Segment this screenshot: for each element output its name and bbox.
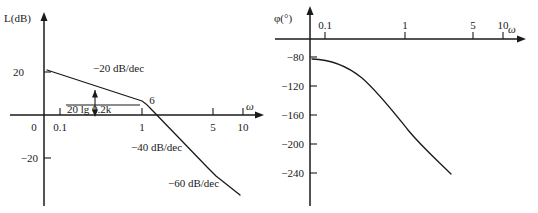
phase-xtick-label-10: 10 — [498, 19, 510, 31]
magnitude-slope-label-20: −20 dB/dec — [93, 62, 144, 74]
phase-xtick-label-0.1: 0.1 — [318, 19, 332, 31]
magnitude-origin-label: 0 — [31, 121, 37, 133]
magnitude-x-axis-arrow — [255, 112, 264, 119]
phase-x-axis-arrow — [517, 36, 526, 43]
phase-ytick-label-minus160: −160 — [281, 109, 304, 121]
phase-plot-svg: φ(°) ω 0.1 1 5 10 −80 −120 −160 −200 −24… — [270, 0, 538, 213]
magnitude-plot-panel: L(dB) ω 20 −20 0 0.1 1 5 10 −20 dB/dec −… — [0, 0, 270, 213]
gain-measure-label-symbol: k — [106, 103, 112, 115]
magnitude-x-axis-label: ω — [246, 100, 254, 112]
magnitude-xtick-label-5: 5 — [210, 121, 216, 133]
magnitude-slope-label-40: −40 dB/dec — [131, 141, 182, 153]
magnitude-ytick-label-minus20: −20 — [21, 152, 39, 164]
bode-plot-figure: L(dB) ω 20 −20 0 0.1 1 5 10 −20 dB/dec −… — [0, 0, 538, 213]
gain-measure-arrow-up-head — [92, 90, 98, 98]
magnitude-xtick-label-0.1: 0.1 — [53, 121, 67, 133]
phase-y-axis-arrow — [307, 6, 314, 15]
magnitude-y-axis-label: L(dB) — [4, 12, 31, 25]
magnitude-plot-svg: L(dB) ω 20 −20 0 0.1 1 5 10 −20 dB/dec −… — [0, 0, 270, 213]
phase-ytick-label-minus80: −80 — [287, 51, 305, 63]
phase-xtick-label-1: 1 — [402, 19, 408, 31]
phase-curve — [312, 59, 451, 174]
gain-measure-label-prefix: 20 lg 0.2 — [67, 103, 106, 115]
magnitude-xtick-label-1: 1 — [139, 121, 145, 133]
magnitude-y-axis-arrow — [41, 12, 48, 21]
gain-measure-label: 20 lg 0.2k — [67, 103, 112, 115]
phase-ytick-label-minus200: −200 — [281, 138, 304, 150]
phase-y-axis-label-units: (°) — [280, 12, 292, 25]
phase-plot-panel: φ(°) ω 0.1 1 5 10 −80 −120 −160 −200 −24… — [270, 0, 538, 213]
magnitude-slope-label-60: −60 dB/dec — [168, 177, 219, 189]
magnitude-xtick-label-10: 10 — [238, 121, 250, 133]
phase-xtick-label-5: 5 — [470, 19, 476, 31]
magnitude-y-axis-label-units: (dB) — [11, 12, 32, 25]
phase-y-axis-label: φ(°) — [274, 12, 292, 25]
magnitude-ytick-label-20: 20 — [13, 66, 25, 78]
magnitude-corner-label-6: 6 — [149, 94, 155, 106]
phase-ytick-label-minus240: −240 — [281, 167, 304, 179]
phase-x-axis-label: ω — [508, 23, 516, 35]
phase-ytick-label-minus120: −120 — [281, 80, 304, 92]
